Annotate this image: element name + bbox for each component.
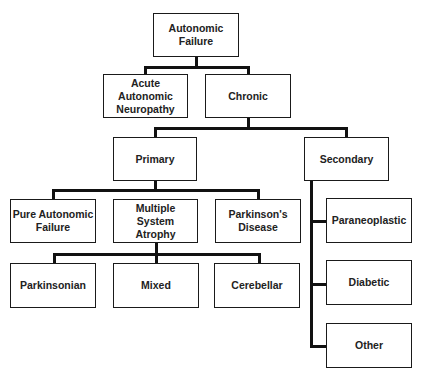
connector-parkinsons-up: [257, 189, 260, 199]
node-cerebellar: Cerebellar: [214, 263, 300, 308]
node-other: Other: [326, 323, 412, 368]
connector-diabetic: [310, 283, 326, 286]
connector-secondary-up: [345, 127, 348, 137]
node-secondary: Secondary: [304, 137, 389, 181]
node-multiple-system-atrophy: Multiple System Atrophy: [113, 199, 198, 243]
connector-parkinsonian-up: [53, 253, 56, 263]
connector-secondary-spine: [310, 180, 313, 348]
connector-chronic-up: [247, 66, 250, 74]
node-parkinsons-disease: Parkinson's Disease: [215, 199, 301, 243]
connector-primary-up: [154, 127, 157, 137]
connector-primary-bar: [52, 189, 260, 192]
connector-mixed-up: [155, 253, 158, 263]
connector-other: [310, 345, 326, 348]
node-autonomic-failure: Autonomic Failure: [153, 13, 239, 57]
node-acute-autonomic-neuropathy: Acute Autonomic Neuropathy: [103, 74, 188, 118]
connector-root-bar: [144, 66, 250, 69]
connector-cerebellar-up: [258, 253, 261, 263]
node-primary: Primary: [113, 137, 197, 181]
connector-chronic-bar: [154, 127, 348, 130]
connector-pure-up: [52, 189, 55, 199]
connector-acute-up: [144, 66, 147, 74]
node-parkinsonian: Parkinsonian: [10, 263, 96, 308]
node-chronic: Chronic: [205, 74, 291, 118]
connector-paraneoplastic: [310, 220, 326, 223]
node-mixed: Mixed: [113, 263, 199, 308]
node-diabetic: Diabetic: [326, 260, 412, 305]
node-paraneoplastic: Paraneoplastic: [326, 198, 412, 243]
node-pure-autonomic-failure: Pure Autonomic Failure: [10, 199, 96, 243]
